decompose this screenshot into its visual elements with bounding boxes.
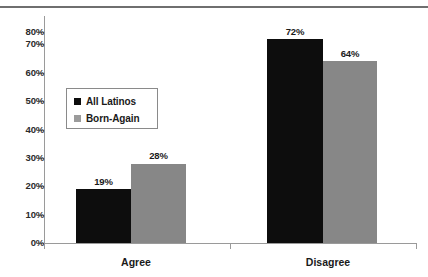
y-axis-label-50: 50% [10,96,44,105]
legend-item-born-again[interactable]: Born-Again [74,110,157,127]
bar-value-label-19: 19% [76,177,131,187]
y-axis-label-70: 70% [10,39,44,48]
x-axis-category-agree: Agree [100,256,172,268]
bar-value-label-28: 28% [131,151,186,161]
legend-label-born-again: Born-Again [86,113,139,124]
legend-swatch-icon [74,115,81,122]
x-axis-category-disagree: Disagree [287,256,369,268]
plot-area: 19% 28% 72% 64% [44,16,417,243]
legend-item-all-latinos[interactable]: All Latinos [74,93,157,110]
bar-born-again-disagree[interactable] [323,61,377,243]
bar-value-label-64: 64% [323,49,377,59]
y-axis-label-40: 40% [10,125,44,134]
legend-label-all-latinos: All Latinos [86,96,136,107]
legend-swatch-icon [74,98,81,105]
bar-all-latinos-agree[interactable] [76,189,131,243]
x-axis-tick [416,243,417,249]
bar-value-label-72: 72% [267,27,323,37]
y-axis-label-30: 30% [10,153,44,162]
x-axis-tick [230,243,231,249]
x-axis-tick [44,243,45,249]
y-axis-label-10: 10% [10,210,44,219]
y-axis-label-0: 0% [10,238,44,247]
bar-all-latinos-disagree[interactable] [267,39,323,243]
bar-chart: 80% 70% 60% 50% 40% 30% 20% 10% 0% 19% [0,0,428,277]
chart-legend: All Latinos Born-Again [66,88,158,129]
top-divider-rule [0,6,428,8]
y-axis-label-20: 20% [10,181,44,190]
y-axis-label-80: 80% [10,27,44,36]
bar-born-again-agree[interactable] [131,164,186,244]
y-axis-label-60: 60% [10,68,44,77]
